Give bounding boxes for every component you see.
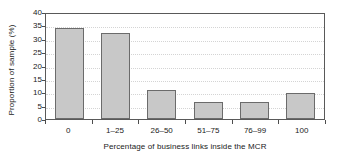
x-tick-label: 100 bbox=[278, 125, 325, 137]
x-tick-label: 0 bbox=[45, 125, 92, 137]
x-tick-mark bbox=[92, 120, 93, 124]
x-tick-mark bbox=[138, 120, 139, 124]
x-axis-title: Percentage of business links inside the … bbox=[45, 141, 325, 152]
x-tick-label: 1–25 bbox=[92, 125, 139, 137]
y-tick-label: 30 bbox=[22, 35, 42, 45]
bar-slot bbox=[185, 14, 231, 119]
y-tick-label: 5 bbox=[22, 102, 42, 112]
bar-slot bbox=[278, 14, 324, 119]
bar bbox=[286, 93, 315, 119]
x-tick-mark bbox=[185, 120, 186, 124]
bar-slot bbox=[139, 14, 185, 119]
bar bbox=[147, 90, 176, 119]
bar-slot bbox=[231, 14, 277, 119]
y-tick-label: 0 bbox=[22, 115, 42, 125]
y-tick-label: 35 bbox=[22, 21, 42, 31]
x-tick-label: 51–75 bbox=[185, 125, 232, 137]
bar bbox=[101, 33, 130, 119]
x-tick-mark bbox=[278, 120, 279, 124]
x-tick-mark bbox=[325, 120, 326, 124]
y-tick-label: 15 bbox=[22, 75, 42, 85]
bar bbox=[55, 28, 84, 119]
y-tick-label: 25 bbox=[22, 48, 42, 58]
x-axis-tick-marks bbox=[45, 120, 325, 124]
x-tick-mark bbox=[45, 120, 46, 124]
y-axis-tick-labels: 0510152025303540 bbox=[22, 13, 42, 120]
bar bbox=[240, 102, 269, 119]
x-axis-tick-labels: 01–2526–5051–7576–99100 bbox=[45, 125, 325, 137]
y-tick-label: 20 bbox=[22, 62, 42, 72]
bar-slot bbox=[46, 14, 92, 119]
plot-area bbox=[45, 13, 325, 120]
x-tick-mark bbox=[232, 120, 233, 124]
bar bbox=[194, 102, 223, 119]
y-axis-title: Proportion of sample (%) bbox=[6, 10, 18, 130]
y-tick-label: 40 bbox=[22, 8, 42, 18]
x-tick-label: 26–50 bbox=[138, 125, 185, 137]
y-tick-label: 10 bbox=[22, 88, 42, 98]
bars-container bbox=[46, 14, 324, 119]
bar-chart-figure: Proportion of sample (%) 051015202530354… bbox=[0, 0, 340, 158]
bar-slot bbox=[92, 14, 138, 119]
x-tick-label: 76–99 bbox=[232, 125, 279, 137]
